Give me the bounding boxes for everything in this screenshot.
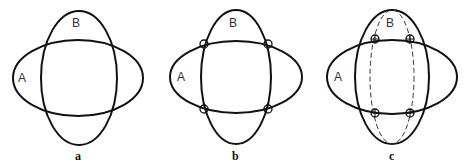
intersection-markers — [200, 40, 272, 113]
crossed-circle-marker — [406, 35, 414, 43]
caption-b: b — [232, 149, 239, 163]
panel-c: A B c — [327, 10, 457, 163]
label-b: B — [229, 16, 237, 30]
panel-b: A B b — [170, 10, 302, 163]
crossed-circle-marker — [406, 109, 414, 117]
ellipse-a — [170, 41, 302, 113]
ellipse-b — [201, 10, 271, 144]
venn-figure: A B a A B b — [0, 0, 474, 167]
label-a: A — [334, 70, 342, 84]
label-a: A — [177, 70, 185, 84]
caption-a: a — [75, 149, 81, 163]
caption-c: c — [389, 149, 395, 163]
ellipse-b — [355, 10, 429, 144]
panel-a: A B a — [13, 11, 143, 163]
dashed-inner-ellipse — [370, 10, 414, 144]
ellipse-a — [327, 40, 457, 114]
intersection-markers — [371, 35, 414, 117]
label-b: B — [386, 16, 394, 30]
label-b: B — [72, 16, 80, 30]
label-a: A — [18, 71, 26, 85]
crossed-circle-marker — [371, 109, 379, 117]
ellipse-b — [41, 11, 117, 145]
ellipse-a — [13, 40, 143, 116]
crossed-circle-marker — [371, 35, 379, 43]
